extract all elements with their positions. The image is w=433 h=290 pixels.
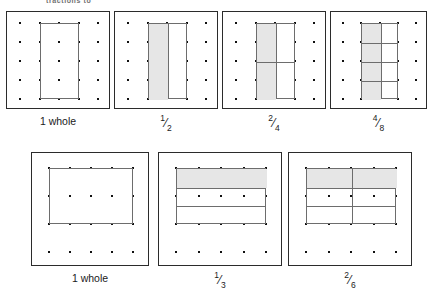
card-caption: 4⁄8 xyxy=(330,115,427,131)
geoboard-peg-dot xyxy=(342,41,344,43)
geoboard-peg-dot xyxy=(19,98,21,100)
card-caption: 1 whole xyxy=(6,115,110,127)
fraction-denominator: 3 xyxy=(221,280,226,290)
whole-label: 1 whole xyxy=(40,115,76,127)
geoboard-dot-grid xyxy=(115,12,217,108)
geoboard-dot-grid xyxy=(331,12,426,108)
card-1-whole-horizontal xyxy=(31,152,149,266)
fraction-denominator: 2 xyxy=(167,123,172,133)
geoboard-peg-dot xyxy=(19,79,21,81)
shaded-fraction-part xyxy=(257,24,277,62)
worksheet-page: tractions to 1 whole1⁄22⁄44⁄81 whole1⁄32… xyxy=(0,0,433,290)
geoboard-dot-grid xyxy=(7,12,109,108)
geoboard-peg-dot xyxy=(19,60,21,62)
division-line-vertical xyxy=(168,24,169,98)
shaded-fraction-part xyxy=(362,43,380,62)
geoboard-peg-dot xyxy=(205,98,207,100)
fraction-label: 2⁄4 xyxy=(268,115,279,131)
geoboard-peg-dot xyxy=(415,98,417,100)
geoboard-peg-dot xyxy=(97,79,99,81)
whole-label: 1 whole xyxy=(72,272,108,284)
shaded-fraction-part xyxy=(307,169,352,188)
geoboard-peg-dot xyxy=(342,60,344,62)
fraction-label: 1⁄2 xyxy=(160,115,171,131)
geoboard-peg-dot xyxy=(132,251,134,253)
geoboard-peg-dot xyxy=(415,22,417,24)
geoboard-dot-grid xyxy=(32,153,148,265)
division-line-vertical xyxy=(352,169,353,223)
card-caption: 1 whole xyxy=(31,272,149,284)
geoboard-peg-dot xyxy=(415,60,417,62)
geoboard-peg-dot xyxy=(97,98,99,100)
fraction-denominator: 8 xyxy=(380,123,385,133)
geoboard-peg-dot xyxy=(127,79,129,81)
fraction-rectangle xyxy=(40,23,79,99)
card-caption: 1⁄3 xyxy=(158,272,282,288)
geoboard-peg-dot xyxy=(415,79,417,81)
geoboard-dot-grid xyxy=(289,153,411,265)
geoboard-peg-dot xyxy=(97,22,99,24)
division-line-vertical xyxy=(276,24,277,98)
geoboard-peg-dot xyxy=(48,251,50,253)
geoboard-peg-dot xyxy=(235,98,237,100)
card-caption: 2⁄6 xyxy=(288,272,412,288)
card-caption: 2⁄4 xyxy=(222,115,326,131)
division-line-vertical xyxy=(381,24,382,98)
fraction-label: 4⁄8 xyxy=(373,115,384,131)
geoboard-peg-dot xyxy=(205,79,207,81)
geoboard-peg-dot xyxy=(97,60,99,62)
geoboard-peg-dot xyxy=(243,251,245,253)
division-line-horizontal xyxy=(362,43,397,44)
geoboard-peg-dot xyxy=(127,60,129,62)
geoboard-peg-dot xyxy=(328,251,330,253)
geoboard-peg-dot xyxy=(111,251,113,253)
fraction-rectangle xyxy=(306,168,396,224)
geoboard-peg-dot xyxy=(313,41,315,43)
geoboard-peg-dot xyxy=(342,79,344,81)
geoboard-peg-dot xyxy=(235,60,237,62)
geoboard-peg-dot xyxy=(235,41,237,43)
fraction-denominator: 6 xyxy=(351,280,356,290)
division-line-horizontal xyxy=(257,62,294,63)
fraction-numerator: 4 xyxy=(373,113,378,123)
shaded-fraction-part xyxy=(362,62,380,81)
geoboard-peg-dot xyxy=(198,251,200,253)
geoboard-peg-dot xyxy=(90,251,92,253)
shaded-fraction-part xyxy=(149,24,169,100)
geoboard-peg-dot xyxy=(313,79,315,81)
division-line-horizontal xyxy=(307,188,395,189)
fraction-label: 1⁄3 xyxy=(214,272,225,288)
geoboard-peg-dot xyxy=(342,22,344,24)
geoboard-peg-dot xyxy=(127,22,129,24)
shaded-fraction-part xyxy=(177,169,267,188)
fraction-numerator: 1 xyxy=(214,270,219,280)
geoboard-dot-grid xyxy=(223,12,325,108)
division-line-horizontal xyxy=(362,81,397,82)
geoboard-peg-dot xyxy=(235,22,237,24)
division-line-horizontal xyxy=(177,206,265,207)
card-one-third xyxy=(158,152,282,266)
geoboard-peg-dot xyxy=(205,60,207,62)
shaded-fraction-part xyxy=(257,62,277,100)
fraction-rectangle xyxy=(176,168,266,224)
shaded-fraction-part xyxy=(362,81,380,100)
geoboard-peg-dot xyxy=(220,251,222,253)
fraction-numerator: 2 xyxy=(344,270,349,280)
division-line-horizontal xyxy=(307,206,395,207)
shaded-fraction-part xyxy=(362,24,380,43)
card-two-fourths xyxy=(222,11,326,109)
fraction-rectangle xyxy=(49,168,133,224)
geoboard-peg-dot xyxy=(127,41,129,43)
geoboard-peg-dot xyxy=(373,251,375,253)
geoboard-peg-dot xyxy=(97,41,99,43)
geoboard-peg-dot xyxy=(313,60,315,62)
geoboard-peg-dot xyxy=(265,251,267,253)
geoboard-peg-dot xyxy=(19,41,21,43)
division-line-horizontal xyxy=(177,188,265,189)
fraction-denominator: 4 xyxy=(275,123,280,133)
card-four-eighths xyxy=(330,11,427,109)
geoboard-peg-dot xyxy=(350,251,352,253)
cropped-header-text: tractions to xyxy=(46,0,166,4)
fraction-rectangle xyxy=(148,23,187,99)
geoboard-peg-dot xyxy=(235,79,237,81)
